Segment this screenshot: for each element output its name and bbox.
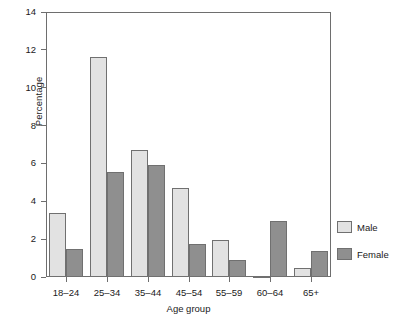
y-tick-mark xyxy=(41,12,46,13)
x-tick-mark xyxy=(270,277,271,282)
bar-chart-figure: Percentage 02468101214 18–2425–3435–4445… xyxy=(0,0,407,326)
bar-female-65+ xyxy=(311,251,328,278)
y-tick-mark xyxy=(41,163,46,164)
bar-female-55_59 xyxy=(229,260,246,277)
bar-male-55_59 xyxy=(212,240,229,277)
legend-swatch-female xyxy=(337,248,352,260)
bar-male-45_54 xyxy=(172,188,189,277)
y-tick-mark xyxy=(41,49,46,50)
bar-male-60_64 xyxy=(253,276,270,278)
x-tick-mark xyxy=(107,277,108,282)
bar-female-45_54 xyxy=(189,244,206,277)
legend-swatch-male xyxy=(337,221,352,233)
x-tick-mark xyxy=(148,277,149,282)
bar-male-25_34 xyxy=(90,57,107,277)
bar-female-25_34 xyxy=(107,172,124,277)
y-tick-label: 0 xyxy=(0,271,36,282)
bar-male-18_24 xyxy=(49,213,66,277)
bar-female-60_64 xyxy=(270,221,287,277)
y-tick-mark xyxy=(41,239,46,240)
y-tick-mark xyxy=(41,125,46,126)
x-tick-mark xyxy=(189,277,190,282)
x-axis-title: Age group xyxy=(46,303,331,314)
x-tick-mark xyxy=(229,277,230,282)
y-tick-mark xyxy=(41,201,46,202)
y-tick-mark xyxy=(41,277,46,278)
bar-female-18_24 xyxy=(66,249,83,277)
y-tick-label: 14 xyxy=(0,6,36,17)
legend-label-male: Male xyxy=(357,222,378,233)
x-tick-label: 65+ xyxy=(281,287,341,298)
y-tick-label: 10 xyxy=(0,82,36,93)
y-tick-label: 8 xyxy=(0,120,36,131)
y-tick-label: 6 xyxy=(0,157,36,168)
plot-area xyxy=(46,12,331,277)
y-axis-title: Percentage xyxy=(33,42,44,162)
y-tick-label: 12 xyxy=(0,44,36,55)
x-tick-mark xyxy=(311,277,312,282)
y-tick-label: 4 xyxy=(0,195,36,206)
bar-male-65+ xyxy=(294,268,311,277)
bar-male-35_44 xyxy=(131,150,148,277)
bar-female-35_44 xyxy=(148,165,165,277)
y-tick-mark xyxy=(41,87,46,88)
x-tick-mark xyxy=(66,277,67,282)
y-tick-label: 2 xyxy=(0,233,36,244)
legend-label-female: Female xyxy=(357,249,389,260)
